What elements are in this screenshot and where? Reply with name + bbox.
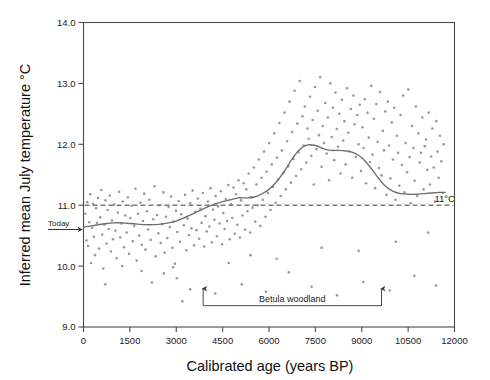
data-point xyxy=(240,199,243,202)
data-point xyxy=(403,191,406,194)
data-point xyxy=(111,219,114,222)
data-point xyxy=(165,215,168,218)
data-point xyxy=(413,180,416,183)
data-point xyxy=(108,194,111,197)
data-point xyxy=(298,80,301,83)
data-point xyxy=(313,183,316,186)
data-point xyxy=(144,248,147,251)
data-point xyxy=(85,239,88,242)
data-point xyxy=(310,286,313,289)
data-point xyxy=(247,172,250,175)
data-point xyxy=(232,186,235,189)
data-point xyxy=(143,192,146,195)
data-point xyxy=(168,226,171,229)
data-point xyxy=(390,121,393,124)
data-point xyxy=(378,167,381,170)
data-point xyxy=(304,105,307,108)
data-point xyxy=(320,247,323,250)
x-tick-label: 7500 xyxy=(305,335,326,346)
data-point xyxy=(316,110,319,113)
data-point xyxy=(151,281,154,284)
data-point xyxy=(140,243,143,246)
data-point xyxy=(430,155,433,158)
data-point xyxy=(420,152,423,155)
data-point xyxy=(343,120,346,123)
data-point xyxy=(179,240,182,243)
data-point xyxy=(285,188,288,191)
data-point xyxy=(296,122,299,125)
data-point xyxy=(227,184,230,187)
data-point xyxy=(174,262,177,265)
data-point xyxy=(293,89,296,92)
data-point xyxy=(408,156,411,159)
data-point xyxy=(195,229,198,232)
data-point xyxy=(221,243,224,246)
data-point xyxy=(388,144,391,147)
data-point xyxy=(98,247,101,250)
data-point xyxy=(311,119,314,122)
data-point xyxy=(100,189,103,192)
data-point xyxy=(305,161,308,164)
data-point xyxy=(175,209,178,212)
data-point xyxy=(418,161,421,164)
data-point xyxy=(383,149,386,152)
data-point xyxy=(407,88,410,91)
data-point xyxy=(286,140,289,143)
x-tick-label: 6000 xyxy=(258,335,279,346)
data-point xyxy=(355,156,358,159)
data-point xyxy=(159,242,162,245)
y-tick-label: 11.0 xyxy=(58,200,76,211)
data-point xyxy=(295,175,298,178)
data-point xyxy=(270,163,273,166)
data-point xyxy=(267,192,270,195)
data-point xyxy=(263,150,266,153)
annotation-label: Betula woodland xyxy=(259,294,326,304)
data-point xyxy=(357,250,360,253)
data-point xyxy=(115,257,118,260)
data-point xyxy=(435,284,438,287)
data-point xyxy=(213,219,216,222)
data-point xyxy=(393,106,396,109)
data-point xyxy=(342,139,345,142)
data-point xyxy=(105,242,108,245)
data-point xyxy=(319,76,322,79)
data-point xyxy=(351,177,354,180)
data-point xyxy=(208,225,211,228)
data-point xyxy=(369,161,372,164)
x-tick-label: 12000 xyxy=(441,335,467,346)
data-point xyxy=(218,222,221,225)
data-point xyxy=(119,236,122,239)
data-point xyxy=(241,214,244,217)
x-axis-title: Calibrated age (years BP) xyxy=(187,358,354,374)
data-point xyxy=(328,179,331,182)
data-point xyxy=(330,136,333,139)
data-point xyxy=(397,152,400,155)
data-point xyxy=(228,262,231,265)
data-point xyxy=(332,106,335,109)
data-point xyxy=(389,177,392,180)
data-point xyxy=(364,98,367,101)
data-point xyxy=(422,188,425,191)
data-point xyxy=(324,102,327,105)
data-point xyxy=(437,177,440,180)
data-point xyxy=(279,195,282,198)
data-point xyxy=(338,113,341,116)
data-point xyxy=(385,194,388,197)
data-point xyxy=(170,195,173,198)
data-point xyxy=(235,193,238,196)
data-point xyxy=(365,182,368,185)
data-point xyxy=(273,132,276,135)
data-point xyxy=(99,216,102,219)
x-tick-label: 1500 xyxy=(119,335,140,346)
data-point xyxy=(196,197,199,200)
data-point xyxy=(200,222,203,225)
data-point xyxy=(176,277,179,280)
data-point xyxy=(183,224,186,227)
data-point xyxy=(177,200,180,203)
data-point xyxy=(379,91,382,94)
data-point xyxy=(191,189,194,192)
data-point xyxy=(341,99,344,102)
data-point xyxy=(128,253,131,256)
data-point xyxy=(413,275,416,278)
data-point xyxy=(346,87,349,90)
